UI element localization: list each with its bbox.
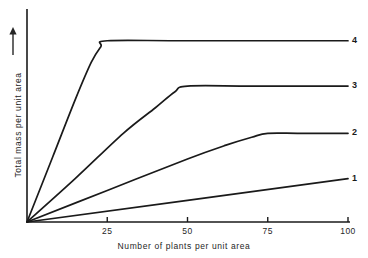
figure-container: Total mass per unit area Number of plant… bbox=[0, 0, 368, 258]
x-axis-label: Number of plants per unit area bbox=[0, 241, 368, 251]
curve-label-1: 1 bbox=[352, 173, 357, 183]
x-axis-tick-label: 50 bbox=[173, 226, 203, 236]
x-axis-tick-label: 75 bbox=[253, 226, 283, 236]
curve-1 bbox=[27, 179, 348, 222]
y-axis-label: Total mass per unit area bbox=[13, 45, 23, 205]
chart-plot-area bbox=[0, 0, 368, 258]
curve-4 bbox=[27, 40, 348, 222]
curve-label-3: 3 bbox=[352, 80, 357, 90]
curve-label-2: 2 bbox=[352, 127, 357, 137]
data-curves-group bbox=[27, 40, 348, 222]
curve-3 bbox=[27, 86, 348, 222]
curve-label-4: 4 bbox=[352, 35, 357, 45]
y-axis-label-wrapper: Total mass per unit area bbox=[13, 45, 27, 205]
x-axis-tick-label: 100 bbox=[333, 226, 363, 236]
x-axis-tick-label: 25 bbox=[92, 226, 122, 236]
